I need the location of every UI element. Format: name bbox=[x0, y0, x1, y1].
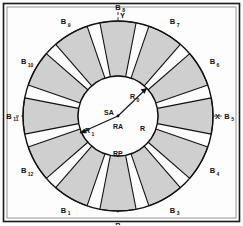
radius-label: R bbox=[140, 125, 145, 132]
sector-label-subscript: 8 bbox=[122, 7, 125, 13]
origin-point bbox=[117, 115, 120, 118]
sector-diagram: Y X SA RA RP R R 0 R 1 B1B2B3B4B5B6B7B8B… bbox=[0, 0, 243, 225]
sector-label-base: B bbox=[170, 17, 176, 26]
sector-label-base: B bbox=[210, 166, 216, 175]
sector-label: B1 bbox=[61, 206, 71, 217]
sector-label-subscript: 10 bbox=[28, 62, 34, 68]
sector-label: B12 bbox=[21, 166, 34, 177]
sector-label-subscript: 11 bbox=[13, 116, 19, 122]
sector-label-subscript: 5 bbox=[231, 116, 234, 122]
sector-label-subscript: 4 bbox=[217, 171, 220, 177]
sector-wedge bbox=[100, 21, 136, 77]
sector-label-subscript: 6 bbox=[217, 62, 220, 68]
radius-label-r1-sub: 1 bbox=[92, 131, 95, 137]
sector-wedge bbox=[23, 98, 79, 134]
sector-label-base: B bbox=[61, 206, 67, 215]
sector-label-subscript: 1 bbox=[68, 210, 71, 216]
radius-label-r0-sub: 0 bbox=[137, 97, 140, 103]
sector-label-subscript: 7 bbox=[177, 22, 180, 28]
sector-label-base: B bbox=[210, 57, 216, 66]
sector-label: B6 bbox=[210, 57, 220, 68]
sector-label-base: B bbox=[224, 112, 230, 121]
radius-label-r1-base: R bbox=[85, 127, 90, 134]
sector-label-base: B bbox=[6, 112, 12, 121]
sector-label: B10 bbox=[21, 57, 34, 68]
sector-label: B7 bbox=[170, 17, 180, 28]
sector-label: B5 bbox=[224, 112, 234, 123]
sector-label: B9 bbox=[61, 17, 71, 28]
stator-axis-label: SA bbox=[104, 109, 114, 116]
sector-label-base: B bbox=[115, 221, 121, 226]
sector-label-subscript: 3 bbox=[177, 210, 180, 216]
radius-label-r0-base: R bbox=[130, 93, 135, 100]
sector-label-base: B bbox=[61, 17, 67, 26]
sector-label: B3 bbox=[170, 206, 180, 217]
sector-label-base: B bbox=[170, 206, 176, 215]
sector-label-subscript: 12 bbox=[28, 171, 34, 177]
sector-label-base: B bbox=[115, 3, 121, 12]
sector-label: B11 bbox=[6, 112, 18, 123]
figure-container: Y X SA RA RP R R 0 R 1 B1B2B3B4B5B6B7B8B… bbox=[0, 0, 243, 225]
x-axis-label: X bbox=[215, 112, 220, 121]
sector-label-base: B bbox=[21, 57, 27, 66]
rotor-pole-label: RP bbox=[113, 150, 123, 157]
sector-wedge bbox=[100, 155, 136, 211]
sector-wedge bbox=[157, 98, 213, 134]
sector-label-subscript: 9 bbox=[68, 22, 71, 28]
rotor-axis-label: RA bbox=[113, 123, 123, 130]
sector-label-base: B bbox=[21, 166, 27, 175]
sector-label: B4 bbox=[210, 166, 220, 177]
